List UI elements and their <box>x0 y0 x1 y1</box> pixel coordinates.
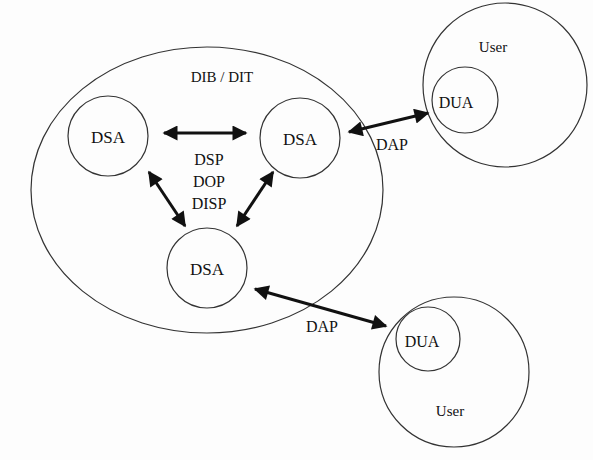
dsa-node-bottom: DSA <box>167 228 247 308</box>
protocol-dop: DOP <box>193 173 225 190</box>
dsa-node-right: DSA <box>260 98 340 178</box>
dsa-left-bottom-arrow <box>149 172 185 226</box>
dua-label: DUA <box>439 94 474 111</box>
user-top: User DUA <box>423 3 587 167</box>
directory-architecture-diagram: DIB / DIT DSA DSA DSA DSP DOP DISP User … <box>0 0 593 460</box>
dsa-label: DSA <box>91 128 126 147</box>
diagram-svg: DIB / DIT DSA DSA DSA DSP DOP DISP User … <box>0 0 593 460</box>
user-label: User <box>436 403 464 419</box>
dap-label-bottom: DAP <box>306 318 338 335</box>
dsa-label: DSA <box>283 130 318 149</box>
internal-protocol-labels: DSP DOP DISP <box>192 151 227 212</box>
dsa-node-left: DSA <box>68 96 148 176</box>
dib-dit-region: DIB / DIT <box>31 47 383 333</box>
user-bottom: User DUA <box>379 297 529 447</box>
dap-arrow-top <box>349 113 428 132</box>
protocol-dsp: DSP <box>194 151 223 168</box>
user-label: User <box>479 39 507 55</box>
dsa-right-bottom-arrow <box>237 172 273 226</box>
protocol-disp: DISP <box>192 195 227 212</box>
dsa-label: DSA <box>190 260 225 279</box>
dua-label: DUA <box>405 333 440 350</box>
dib-dit-label: DIB / DIT <box>191 69 254 85</box>
dap-label-top: DAP <box>376 136 408 153</box>
